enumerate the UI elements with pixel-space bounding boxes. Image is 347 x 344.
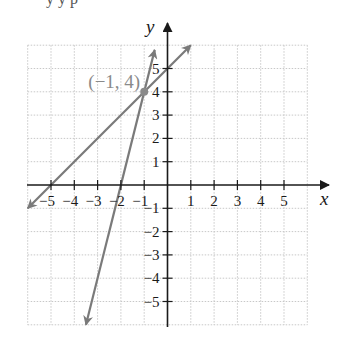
x-axis-label: x: [319, 188, 329, 209]
intersection-point-label: (−1, 4): [88, 71, 140, 93]
y-tick-label: −1: [144, 200, 160, 216]
x-tick-label: −4: [62, 193, 78, 209]
graph-figure: y y p −5−4−3−2−112345−5−4−3−2−112345 (−1…: [0, 0, 347, 344]
y-tick-label: 4: [152, 84, 160, 100]
y-tick-label: 2: [152, 130, 160, 146]
y-tick-label: −2: [144, 224, 160, 240]
x-tick-label: −2: [109, 193, 125, 209]
x-tick-label: 4: [257, 193, 265, 209]
y-tick-label: −4: [144, 270, 160, 286]
x-tick-label: 2: [210, 193, 218, 209]
y-tick-label: 1: [152, 154, 160, 170]
x-tick-label: −5: [39, 193, 55, 209]
x-tick-label: 5: [280, 193, 288, 209]
coordinate-plane: y y p −5−4−3−2−112345−5−4−3−2−112345 (−1…: [0, 0, 347, 344]
y-axis-label: y: [144, 16, 155, 37]
y-tick-label: −5: [144, 294, 160, 310]
x-tick-label: 3: [234, 193, 242, 209]
y-tick-label: 3: [152, 107, 160, 123]
y-tick-label: 5: [152, 61, 160, 77]
x-tick-label: 1: [187, 193, 195, 209]
y-tick-label: −3: [144, 247, 160, 263]
clipped-heading-text: y y p: [46, 0, 78, 8]
x-tick-label: −3: [86, 193, 102, 209]
intersection-point-marker: [140, 88, 148, 96]
plotted-line: [28, 45, 191, 208]
